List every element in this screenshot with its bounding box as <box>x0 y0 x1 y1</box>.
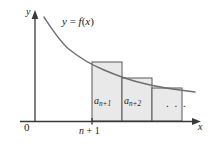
curve-equation-label: y = f(x) <box>62 16 94 27</box>
integral-test-figure: y x 0 y = f(x) n + 1 an+1 an+2 . . . <box>0 0 211 152</box>
y-axis-label: y <box>26 7 30 17</box>
figure-canvas <box>0 0 211 152</box>
bar-label-a-n-plus-1: an+1 <box>94 96 111 108</box>
origin-label: 0 <box>24 122 30 133</box>
bar-label-a-n-plus-2: an+2 <box>124 96 141 108</box>
ellipsis-label: . . . <box>166 98 187 109</box>
bar-label-a2-subscript: n+2 <box>129 100 141 108</box>
x-tick-offset: + 1 <box>87 125 100 136</box>
curve-equation-paren-close: ) <box>90 15 94 27</box>
x-tick-label-n-plus-1: n + 1 <box>79 126 100 136</box>
y-axis-arrowhead <box>32 10 39 19</box>
x-axis-label: x <box>198 122 202 132</box>
bar-label-a1-subscript: n+1 <box>99 100 111 108</box>
